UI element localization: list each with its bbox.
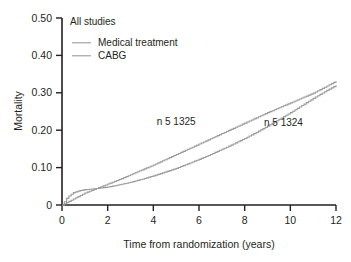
x-tick-label: 6 <box>196 214 202 226</box>
y-tick-label: 0.50 <box>32 12 53 24</box>
y-tick-label: 0.40 <box>32 49 53 61</box>
x-tick-label: 10 <box>284 214 296 226</box>
annotation-cabg: n 5 1324 <box>264 117 303 128</box>
x-tick-label: 8 <box>242 214 248 226</box>
x-tick-label: 2 <box>105 214 111 226</box>
y-tick-label: 0.30 <box>32 86 53 98</box>
x-tick-label: 4 <box>150 214 156 226</box>
y-tick-label: 0.20 <box>32 124 53 136</box>
x-tick-label: 0 <box>59 214 65 226</box>
y-tick-label: 0.10 <box>32 161 53 173</box>
panel-title: All studies <box>70 16 116 27</box>
y-axis-title: Mortality <box>12 90 24 130</box>
y-tick-label: 0 <box>46 199 52 211</box>
mortality-line-chart: 00.100.200.300.400.50 024681012 Mortalit… <box>0 0 351 262</box>
annotation-medical-treatment: n 5 1325 <box>157 116 196 127</box>
chart-figure: 00.100.200.300.400.50 024681012 Mortalit… <box>0 0 351 262</box>
legend-label-cabg: CABG <box>98 50 127 61</box>
x-axis-title: Time from randomization (years) <box>123 238 274 250</box>
x-tick-label: 12 <box>330 214 342 226</box>
legend-label-medical-treatment: Medical treatment <box>98 37 178 48</box>
